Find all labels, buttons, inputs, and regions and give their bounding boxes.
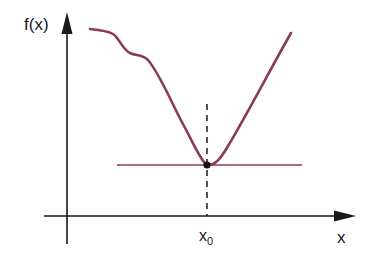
x-axis-label: x (337, 228, 346, 247)
x0-label-subscript: 0 (207, 235, 213, 247)
minimum-point (203, 161, 210, 168)
function-minimum-diagram: f(x) x x0 (0, 0, 372, 258)
y-axis-label: f(x) (24, 15, 49, 34)
x-axis-arrow-icon (334, 211, 356, 222)
function-curve (90, 29, 291, 165)
x0-label-main: x (199, 227, 207, 244)
y-axis-arrow-icon (62, 12, 73, 34)
x0-label: x0 (199, 227, 213, 247)
